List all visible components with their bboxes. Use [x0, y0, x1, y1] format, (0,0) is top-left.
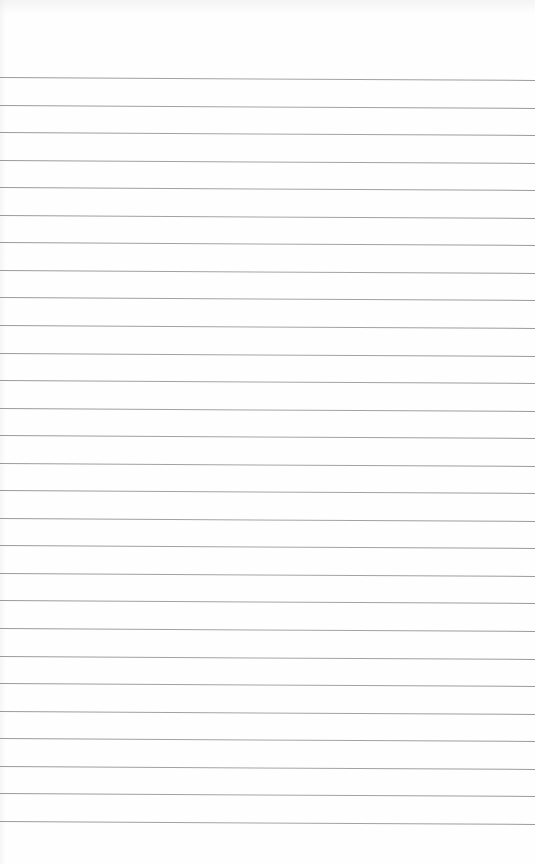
ruled-line: [0, 545, 535, 549]
ruled-line: [0, 518, 535, 522]
lined-paper-page: [0, 0, 535, 864]
ruled-line: [0, 656, 535, 660]
ruled-line: [0, 711, 535, 715]
ruled-line: [0, 490, 535, 494]
ruled-line: [0, 215, 535, 219]
ruled-line: [0, 380, 535, 384]
ruled-line: [0, 821, 535, 825]
ruled-line: [0, 77, 535, 81]
ruled-line: [0, 738, 535, 742]
ruled-line: [0, 187, 535, 191]
ruled-line: [0, 408, 535, 412]
ruled-line: [0, 573, 535, 577]
ruled-line: [0, 435, 535, 439]
ruled-line: [0, 463, 535, 467]
ruled-line: [0, 683, 535, 687]
ruled-line: [0, 160, 535, 164]
ruled-line: [0, 325, 535, 329]
ruled-line: [0, 766, 535, 770]
ruled-line: [0, 242, 535, 246]
ruled-line: [0, 270, 535, 274]
ruled-line: [0, 132, 535, 136]
ruled-line: [0, 297, 535, 301]
ruled-line: [0, 105, 535, 109]
ruled-line: [0, 628, 535, 632]
ruled-line: [0, 600, 535, 604]
ruled-line: [0, 793, 535, 797]
ruled-lines: [0, 0, 535, 864]
ruled-line: [0, 353, 535, 357]
